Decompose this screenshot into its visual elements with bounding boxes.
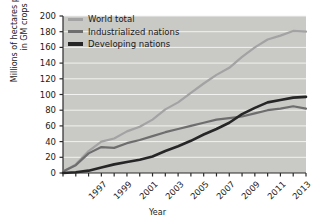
legend-item-developing-nations: Developing nations xyxy=(68,39,179,49)
legend-swatch xyxy=(68,42,83,45)
gm-crops-line-chart: Millions of hectares planted in GM crops… xyxy=(0,0,315,224)
legend-label: Industrialized nations xyxy=(88,27,179,37)
chart-legend: World totalIndustrialized nationsDevelop… xyxy=(68,14,179,52)
legend-label: Developing nations xyxy=(88,39,170,49)
legend-item-world-total: World total xyxy=(68,14,179,24)
legend-label: World total xyxy=(88,14,135,24)
legend-item-industrialized-nations: Industrialized nations xyxy=(68,27,179,37)
x-axis-label: Year xyxy=(0,208,315,217)
legend-swatch xyxy=(68,30,83,33)
legend-swatch xyxy=(68,18,83,21)
